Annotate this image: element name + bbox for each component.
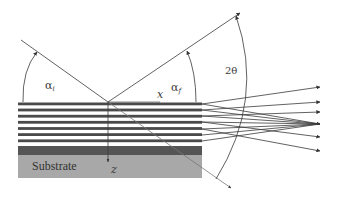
alpha-i-label: αi	[45, 80, 55, 93]
substrate-label: Substrate	[32, 160, 77, 172]
alpha-f-subscript: f	[178, 87, 181, 95]
buffer-layer	[18, 146, 202, 155]
alpha-f-arc	[187, 51, 196, 102]
multilayer-stack	[18, 103, 202, 143]
alpha-i-subscript: i	[52, 85, 54, 93]
two-theta-arc	[216, 16, 247, 179]
incident-beam	[21, 40, 108, 102]
alpha-i-arc	[23, 52, 37, 102]
two-theta-label: 2θ	[225, 66, 237, 76]
z-axis-label: z	[111, 164, 117, 175]
scattered-rays	[202, 87, 320, 151]
alpha-f-label: αf	[171, 82, 181, 95]
x-axis-label: x	[157, 89, 163, 100]
